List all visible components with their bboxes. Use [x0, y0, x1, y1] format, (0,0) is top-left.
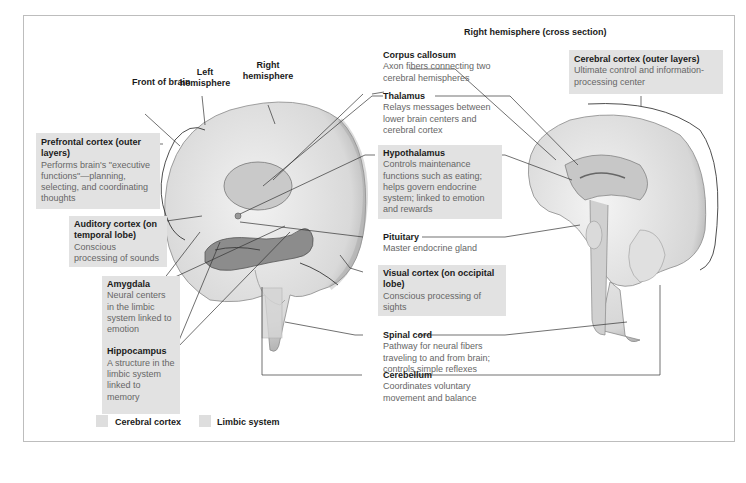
- label-right-hemisphere: Right hemisphere: [237, 60, 299, 82]
- legend-swatch-cerebral-cortex: [96, 415, 108, 427]
- label-hypothalamus: Hypothalamus Controls maintenance functi…: [378, 145, 502, 219]
- label-pituitary: Pituitary Master endocrine gland: [383, 232, 503, 255]
- label-hippocampus: Hippocampus A structure in the limbic sy…: [107, 346, 175, 402]
- label-cerebellum: Cerebellum Coordinates voluntary movemen…: [383, 370, 493, 404]
- legend-swatch-limbic-system: [199, 415, 211, 427]
- label-auditory-cortex: Auditory cortex (on temporal lobe) Consc…: [69, 216, 167, 267]
- label-corpus-callosum: Corpus callosum Axon fibers connecting t…: [383, 50, 513, 84]
- cross-section-drawing: [528, 104, 718, 342]
- cross-section-title: Right hemisphere (cross section): [464, 27, 607, 38]
- left-brain-drawing: [161, 102, 366, 351]
- legend-label-cerebral-cortex: Cerebral cortex: [115, 417, 181, 427]
- label-limbic-group: Amygdala Neural centers in the limbic sy…: [102, 276, 180, 414]
- label-amygdala: Amygdala Neural centers in the limbic sy…: [107, 279, 175, 335]
- label-left-hemisphere: Left hemisphere: [174, 67, 236, 89]
- label-thalamus: Thalamus Relays messages between lower b…: [383, 91, 503, 136]
- label-visual-cortex: Visual cortex (on occipital lobe) Consci…: [378, 265, 506, 316]
- legend-label-limbic-system: Limbic system: [217, 417, 280, 427]
- label-spinal-cord: Spinal cord Pathway for neural fibers tr…: [383, 330, 503, 375]
- label-cerebral-cortex: Cerebral cortex (outer layers) Ultimate …: [569, 50, 723, 94]
- label-prefrontal-cortex: Prefrontal cortex (outer layers) Perform…: [36, 133, 160, 209]
